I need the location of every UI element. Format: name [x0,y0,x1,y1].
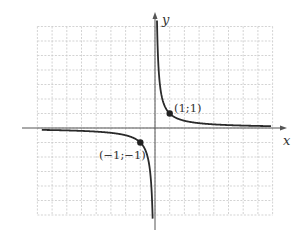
x-axis-label: x [283,133,291,148]
x-axis-arrow-icon [280,126,287,131]
y-axis-arrow-icon [153,12,158,19]
point-label-neg1-neg1: (−1;−1) [99,148,146,162]
point-label-1-1: (1;1) [174,101,201,115]
curve-branch-negative [42,130,153,219]
point-neg1-neg1 [137,139,143,145]
y-axis-label: y [161,12,170,27]
point-1-1 [167,110,173,116]
curves [42,21,271,219]
hyperbola-plot: y x (1;1) (−1;−1) [0,0,305,244]
axes [22,12,287,230]
